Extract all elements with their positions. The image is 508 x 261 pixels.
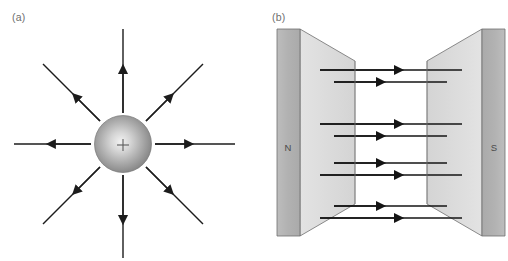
field-line-southeast bbox=[146, 167, 203, 224]
panel-a-label: (a) bbox=[12, 11, 25, 23]
magnet-pole-south: S bbox=[427, 29, 505, 236]
panel-b-label: (b) bbox=[272, 11, 285, 23]
panel-b-drawing: N S bbox=[254, 0, 508, 261]
panel-b-magnetic-field: (b) bbox=[254, 0, 508, 261]
south-pole-letter: S bbox=[491, 142, 497, 153]
panel-a-drawing bbox=[0, 0, 254, 261]
field-line-northeast bbox=[146, 64, 203, 121]
south-pole-body bbox=[482, 29, 505, 236]
figure-root: (a) bbox=[0, 0, 508, 261]
north-pole-body bbox=[277, 29, 300, 236]
north-pole-letter: N bbox=[285, 142, 292, 153]
south-pole-face bbox=[427, 29, 482, 236]
field-line-southwest bbox=[43, 167, 100, 224]
panel-a-electric-field: (a) bbox=[0, 0, 254, 261]
magnet-pole-north: N bbox=[277, 29, 355, 236]
field-line-northwest bbox=[43, 64, 100, 121]
north-pole-face bbox=[300, 29, 355, 236]
